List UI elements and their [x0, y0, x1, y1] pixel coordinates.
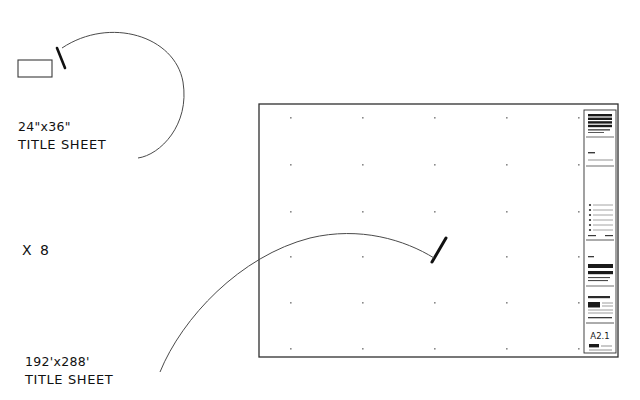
title-block-sheet-number: A2.1: [590, 331, 609, 341]
large-sheet-dimension-label: 192'x288': [25, 353, 90, 370]
drawing-canvas: A2.1 24"x36" TITLE SHEET X 8 192'x288' T…: [0, 0, 640, 400]
title-block-frame: [584, 110, 616, 353]
small-sheet-rectangle: [18, 60, 52, 77]
title-block-issue-field: [588, 256, 594, 257]
multiplier-label: X 8: [22, 242, 51, 259]
small-sheet-tick-arrowhead: [57, 48, 65, 68]
large-sheet-border: [259, 104, 618, 357]
cad-drawing: A2.1: [0, 0, 640, 400]
small-sheet-name-label: TITLE SHEET: [18, 136, 106, 153]
small-sheet-dimension-label: 24"x36": [18, 118, 71, 135]
title-block: A2.1: [584, 110, 616, 353]
large-sheet-name-label: TITLE SHEET: [25, 371, 113, 388]
